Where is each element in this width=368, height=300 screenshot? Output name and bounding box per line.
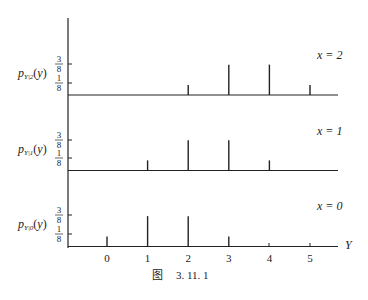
conditional-pmf-chart: 381838183818 pY|2(y) pY|1(y) pY|0(y) x =… (0, 0, 368, 300)
x-tick-label: 3 (226, 252, 232, 264)
fraction-numerator: 3 (57, 54, 62, 64)
panel-x0-ylabel: pY|0(y) (17, 217, 47, 232)
pmf-stems (107, 65, 310, 247)
figure-caption-number: 3. 11. 1 (176, 269, 209, 281)
x-tick-label: 4 (267, 252, 273, 264)
fraction-labels: 381838183818 (55, 54, 63, 244)
fraction-numerator: 3 (57, 130, 62, 140)
x-tick-label: 5 (307, 252, 313, 264)
panel-x2-label: x = 2 (316, 48, 342, 62)
x-tick-label: 2 (185, 252, 191, 264)
x-axis-label: Y (345, 238, 353, 252)
x-tick-labels: 012345 (104, 252, 313, 264)
panel-x1-ylabel: pY|1(y) (17, 142, 47, 157)
fraction-numerator: 1 (57, 73, 62, 83)
x-tick-label: 1 (145, 252, 151, 264)
fraction-numerator: 1 (57, 148, 62, 158)
fraction-denominator: 8 (57, 234, 62, 244)
fraction-denominator: 8 (57, 158, 62, 168)
fraction-denominator: 8 (57, 83, 62, 93)
panel-x0-label: x = 0 (316, 199, 342, 213)
fraction-numerator: 3 (57, 205, 62, 215)
panel-x2-ylabel: pY|2(y) (17, 66, 47, 81)
x-tick-label: 0 (104, 252, 110, 264)
panel-x1-label: x = 1 (316, 124, 342, 138)
figure-caption-prefix: 图 (152, 269, 163, 281)
fraction-numerator: 1 (57, 224, 62, 234)
